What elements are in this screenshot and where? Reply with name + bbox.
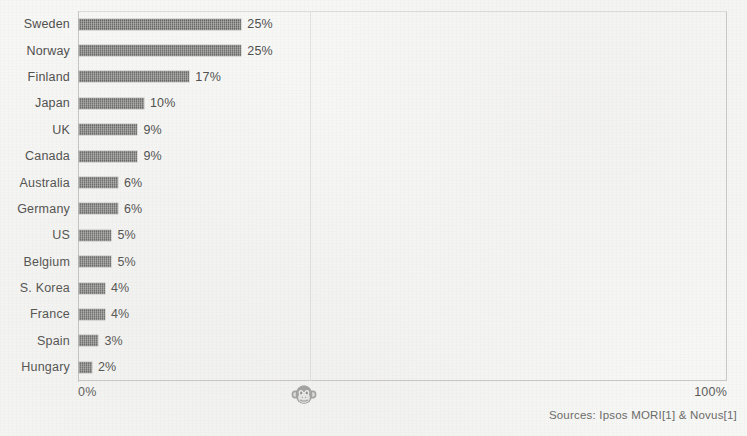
bar-container: 4% bbox=[79, 307, 129, 321]
category-label: S. Korea bbox=[0, 281, 70, 295]
category-label: Spain bbox=[0, 334, 70, 348]
category-label: US bbox=[0, 228, 70, 242]
bar-container: 5% bbox=[79, 255, 136, 269]
bar-row: Sweden25% bbox=[0, 11, 747, 37]
bar-row: UK9% bbox=[0, 117, 747, 143]
bar-row: Spain3% bbox=[0, 328, 747, 354]
monkey-face-icon bbox=[291, 384, 317, 406]
x-axis-tick-min: 0% bbox=[78, 385, 96, 399]
bar-row: Australia6% bbox=[0, 169, 747, 195]
category-label: Norway bbox=[0, 44, 70, 58]
bar bbox=[79, 151, 137, 162]
bar-value-label: 5% bbox=[117, 228, 135, 242]
bar-container: 25% bbox=[79, 44, 273, 58]
bar bbox=[79, 19, 241, 30]
bar bbox=[79, 230, 111, 241]
category-label: Japan bbox=[0, 96, 70, 110]
bar-row: Norway25% bbox=[0, 37, 747, 63]
bar-row: Belgium5% bbox=[0, 249, 747, 275]
sources-note: Sources: Ipsos MORI[1] & Novus[1] bbox=[549, 409, 737, 421]
bar-value-label: 25% bbox=[247, 17, 273, 31]
bar-value-label: 17% bbox=[195, 70, 221, 84]
bar-value-label: 3% bbox=[104, 334, 122, 348]
bar bbox=[79, 283, 105, 294]
bar-value-label: 9% bbox=[143, 123, 161, 137]
bar bbox=[79, 45, 241, 56]
bar bbox=[79, 124, 137, 135]
bar bbox=[79, 256, 111, 267]
bar-row: Hungary2% bbox=[0, 354, 747, 380]
bar-value-label: 6% bbox=[124, 176, 142, 190]
bar-container: 2% bbox=[79, 360, 116, 374]
bar-row: France4% bbox=[0, 301, 747, 327]
bar-container: 6% bbox=[79, 176, 142, 190]
bar-container: 25% bbox=[79, 17, 273, 31]
bar-value-label: 4% bbox=[111, 307, 129, 321]
bar-value-label: 6% bbox=[124, 202, 142, 216]
category-label: Sweden bbox=[0, 17, 70, 31]
bar-value-label: 10% bbox=[150, 96, 176, 110]
bar-row: Germany6% bbox=[0, 196, 747, 222]
category-label: UK bbox=[0, 123, 70, 137]
bar-container: 9% bbox=[79, 123, 162, 137]
bar-container: 9% bbox=[79, 149, 162, 163]
bar bbox=[79, 71, 189, 82]
category-label: Australia bbox=[0, 176, 70, 190]
bar bbox=[79, 335, 98, 346]
bar-chart: Sweden25%Norway25%Finland17%Japan10%UK9%… bbox=[0, 0, 747, 436]
category-label: Hungary bbox=[0, 360, 70, 374]
x-axis-tick-max: 100% bbox=[670, 385, 727, 399]
bar bbox=[79, 177, 118, 188]
bar-row: US5% bbox=[0, 222, 747, 248]
bar-value-label: 9% bbox=[143, 149, 161, 163]
bar bbox=[79, 203, 118, 214]
bar-value-label: 4% bbox=[111, 281, 129, 295]
category-label: France bbox=[0, 307, 70, 321]
bar-container: 5% bbox=[79, 228, 136, 242]
category-label: Finland bbox=[0, 70, 70, 84]
category-label: Canada bbox=[0, 149, 70, 163]
bar-rows: Sweden25%Norway25%Finland17%Japan10%UK9%… bbox=[0, 11, 747, 380]
bar-row: Finland17% bbox=[0, 64, 747, 90]
bar bbox=[79, 98, 144, 109]
bar bbox=[79, 362, 92, 373]
category-label: Germany bbox=[0, 202, 70, 216]
bar-container: 17% bbox=[79, 70, 221, 84]
category-label: Belgium bbox=[0, 255, 70, 269]
bar-value-label: 5% bbox=[117, 255, 135, 269]
bar-container: 6% bbox=[79, 202, 142, 216]
bar-container: 4% bbox=[79, 281, 129, 295]
bar-container: 10% bbox=[79, 96, 176, 110]
bar-row: Japan10% bbox=[0, 90, 747, 116]
bar-value-label: 2% bbox=[98, 360, 116, 374]
bar-row: Canada9% bbox=[0, 143, 747, 169]
bar-container: 3% bbox=[79, 334, 123, 348]
bar bbox=[79, 309, 105, 320]
bar-value-label: 25% bbox=[247, 44, 273, 58]
bar-row: S. Korea4% bbox=[0, 275, 747, 301]
